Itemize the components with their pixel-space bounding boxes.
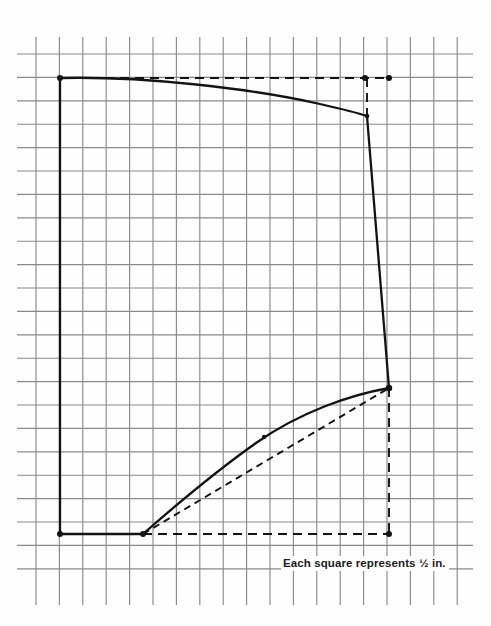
point-bottom-curve-start	[140, 531, 146, 537]
grid-layer	[17, 37, 473, 605]
grid-scale-caption: Each square represents ½ in.	[281, 556, 449, 571]
point-right-vertex	[386, 385, 392, 391]
point-bottom-left	[57, 531, 63, 537]
point-curve-corner	[365, 114, 370, 119]
point-top-right	[386, 75, 392, 81]
point-lower-curve-mid	[262, 435, 266, 439]
pattern-figure	[0, 0, 491, 626]
point-bottom-right	[386, 531, 392, 537]
chord-guide	[143, 388, 389, 534]
point-top-curve-end	[362, 75, 368, 81]
point-top-left	[57, 75, 63, 81]
figure-page: Each square represents ½ in.	[0, 0, 491, 626]
